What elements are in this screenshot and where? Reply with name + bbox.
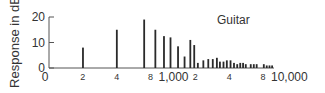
x-tick-label: 2 xyxy=(193,72,198,82)
bar xyxy=(250,64,252,68)
x-tick-label: 8 xyxy=(148,72,153,82)
bar xyxy=(263,64,265,68)
bar xyxy=(212,59,214,68)
y-tick-label: 10 xyxy=(32,36,46,50)
bar xyxy=(245,64,247,68)
bar xyxy=(253,64,255,68)
bar xyxy=(202,60,204,68)
bar xyxy=(269,65,271,68)
bar xyxy=(154,30,156,68)
bar xyxy=(216,58,218,68)
bar xyxy=(256,64,258,68)
bar xyxy=(226,60,228,68)
bar xyxy=(170,37,172,68)
bar xyxy=(207,59,209,68)
bar xyxy=(271,65,273,68)
bar xyxy=(219,62,221,68)
bar xyxy=(82,48,84,68)
x-tick-label: 1,000 xyxy=(159,70,189,84)
x-tick-label: 4 xyxy=(227,72,232,82)
bar xyxy=(239,63,241,68)
bar xyxy=(266,65,268,68)
bar xyxy=(223,62,225,68)
x-tick-label: 8 xyxy=(261,72,266,82)
bar xyxy=(184,57,186,68)
bar xyxy=(242,63,244,68)
bar xyxy=(189,40,191,68)
bar xyxy=(233,63,235,68)
bar xyxy=(143,20,145,68)
bar xyxy=(236,64,238,68)
bar xyxy=(163,36,165,68)
bar xyxy=(230,60,232,68)
y-tick-label: 20 xyxy=(32,10,46,24)
bar xyxy=(197,63,199,68)
x-tick-label: 4 xyxy=(114,72,119,82)
bar-chart: 0102002481,00024810,000 xyxy=(0,0,325,93)
bar xyxy=(177,46,179,68)
x-tick-label: 0 xyxy=(42,70,49,84)
bar xyxy=(116,30,118,68)
x-tick-label: 10,000 xyxy=(271,70,308,84)
bars xyxy=(82,20,273,68)
x-tick-label: 2 xyxy=(80,72,85,82)
bar xyxy=(193,45,195,68)
